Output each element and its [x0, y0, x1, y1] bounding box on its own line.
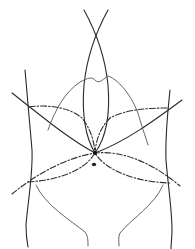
- upper-dashed-arc-right: [95, 108, 167, 153]
- diagram-canvas: [0, 0, 195, 249]
- torso-outline-right: [166, 90, 172, 249]
- lower-dashed-arc-right: [28, 153, 170, 183]
- inguinal-line-right: [119, 185, 163, 246]
- vertical-curve-right: [83, 10, 108, 153]
- diagonal-line-left: [12, 93, 95, 153]
- torso-outline-left: [25, 70, 32, 247]
- upper-dashed-arc-left: [29, 106, 95, 153]
- central-junction-node: [93, 151, 97, 155]
- inguinal-line-left: [36, 185, 88, 246]
- torso-diagram: [0, 0, 195, 249]
- umbilicus-dot: [92, 163, 96, 167]
